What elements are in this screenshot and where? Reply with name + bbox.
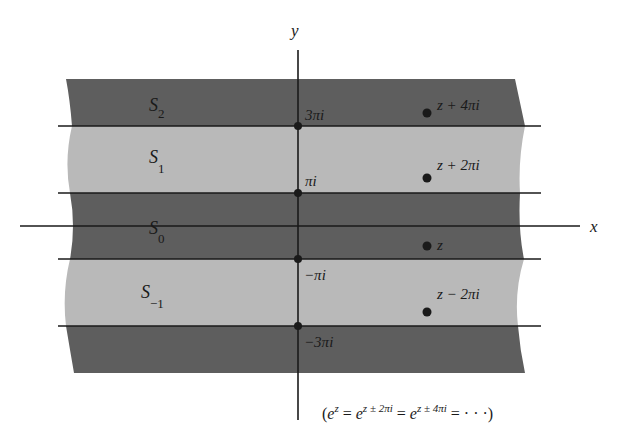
- x-axis-label: x: [589, 217, 598, 236]
- periodicity-caption: (ez = ez ± 2πi = ez ± 4πi = · · ·): [322, 402, 493, 423]
- y-tick-label-neg-3pi: −3πi: [304, 334, 333, 350]
- tick-dot-neg-pi: [294, 255, 302, 263]
- y-tick-label-pi: πi: [305, 173, 317, 189]
- point-label-z-minus-2pi: z − 2πi: [436, 286, 480, 302]
- y-tick-label-3pi: 3πi: [304, 107, 324, 123]
- point-z-plus-2pi: [423, 174, 432, 183]
- point-label-z-plus-4pi: z + 4πi: [436, 97, 480, 113]
- point-label-z-plus-2pi: z + 2πi: [436, 157, 480, 173]
- y-tick-label-neg-pi: −πi: [304, 267, 326, 283]
- tick-dot-3pi: [294, 122, 302, 130]
- tick-dot-neg-3pi: [294, 322, 302, 330]
- point-z-minus-2pi: [423, 308, 432, 317]
- exponential-strips-diagram: y x 3πi πi −πi −3πi S2 S1 S0 S−1 z + 4πi…: [0, 0, 625, 437]
- strip-s-2: [66, 326, 525, 373]
- point-z-plus-4pi: [423, 109, 432, 118]
- tick-dot-pi: [294, 189, 302, 197]
- point-label-z: z: [436, 237, 443, 253]
- y-axis-label: y: [289, 21, 299, 40]
- point-z: [423, 242, 432, 251]
